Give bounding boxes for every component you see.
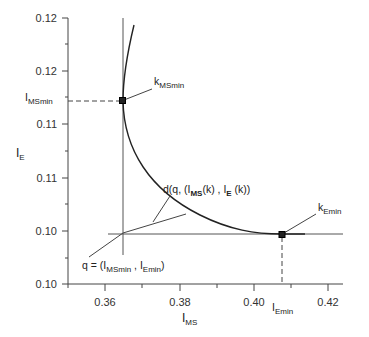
x-tick-label: 0.36 xyxy=(94,296,115,308)
y-tick-label: 0.12 xyxy=(36,65,57,77)
x-ticks xyxy=(68,284,328,291)
y-axis-title: IE xyxy=(16,146,25,162)
i-emin-label: IEmin xyxy=(272,301,293,316)
q-leader-line xyxy=(89,233,123,257)
x-tick-label: 0.42 xyxy=(317,296,338,308)
x-axis-title: IMS xyxy=(182,311,197,327)
k-msmin-label: kMSmin xyxy=(154,75,184,90)
k-emin-marker xyxy=(279,232,285,238)
y-tick-label: 0.12 xyxy=(36,12,57,24)
k-msmin-leader-line xyxy=(124,89,152,100)
y-tick-label: 0.10 xyxy=(36,225,57,237)
q-label: q = (IMSmin , IEmin) xyxy=(82,259,165,274)
k-emin-leader-line xyxy=(284,214,316,233)
k-emin-label: kEmin xyxy=(318,201,341,216)
chart-canvas: 0.12 0.12 0.11 0.11 0.10 0.10 0.36 0.38 … xyxy=(0,0,369,337)
pareto-curve xyxy=(123,25,305,234)
y-tick-label: 0.11 xyxy=(36,118,57,130)
distance-label: d(q, (IMS(k) , IE (k)) xyxy=(163,183,250,198)
distance-line xyxy=(123,214,186,233)
y-ticks xyxy=(62,18,68,284)
y-tick-label: 0.11 xyxy=(36,172,57,184)
distance-leader-line xyxy=(153,196,170,222)
k-msmin-marker xyxy=(120,98,126,104)
y-tick-label: 0.10 xyxy=(36,278,57,290)
i-msmin-label: IMSmin xyxy=(25,91,53,106)
x-tick-label: 0.38 xyxy=(169,296,190,308)
x-tick-label: 0.40 xyxy=(243,296,264,308)
